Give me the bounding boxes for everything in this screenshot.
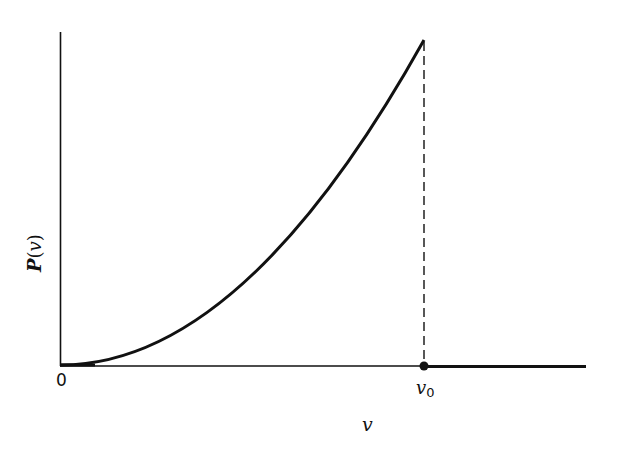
chart: 0 v0 v P(v) xyxy=(0,0,617,453)
y-axis-label: P(v) xyxy=(24,234,45,273)
x-tick-origin: 0 xyxy=(56,370,67,390)
x-axis-label: v xyxy=(362,413,373,435)
x-tick-v0: v0 xyxy=(416,377,434,400)
cutoff-point xyxy=(420,362,429,371)
curve-p-of-v xyxy=(60,40,424,365)
